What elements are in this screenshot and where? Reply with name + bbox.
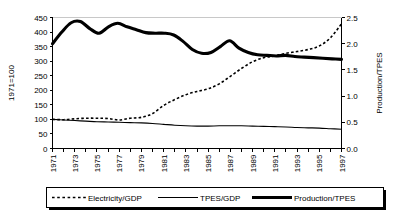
chart-figure: 050100150200250300350400450 0.00.51.01.5… (0, 0, 393, 217)
legend-label-tpes-gdp: TPES/GDP (200, 194, 240, 203)
left-tick-label: 400 (34, 28, 48, 37)
series-line-electricity-gdp (53, 24, 342, 120)
right-tick-label: 0.0 (347, 145, 359, 154)
x-tick-label: 1987 (226, 154, 235, 172)
legend-label-production-tpes: Production/TPES (294, 194, 355, 203)
x-tick-label: 1993 (293, 154, 302, 172)
x-tick-label: 1985 (204, 154, 213, 172)
legend-label-electricity-gdp: Electricity/GDP (88, 194, 142, 203)
left-tick-label: 50 (39, 130, 48, 139)
x-tick-label: 1973 (71, 154, 80, 172)
right-tick-label: 1.5 (347, 66, 359, 75)
left-tick-label: 250 (34, 72, 48, 81)
x-tick-label: 1991 (271, 154, 280, 172)
chart-legend: Electricity/GDP TPES/GDP Production/TPES (47, 188, 387, 211)
chart-svg: 050100150200250300350400450 0.00.51.01.5… (0, 0, 393, 217)
left-tick-label: 100 (34, 115, 48, 124)
right-axis-tick-labels: 0.00.51.01.52.02.5 (347, 14, 359, 154)
x-tick-label: 1997 (338, 154, 347, 172)
plot-area-border (53, 18, 342, 149)
x-tick-label: 1975 (93, 154, 102, 172)
x-tick-label: 1983 (182, 154, 191, 172)
right-tick-label: 2.0 (347, 40, 359, 49)
left-tick-label: 300 (34, 57, 48, 66)
right-axis-title: Production/TPES (375, 52, 384, 113)
right-tick-label: 2.5 (347, 14, 359, 23)
series-line-production-tpes (53, 21, 342, 59)
series-line-tpes-gdp (53, 119, 342, 129)
x-tick-label: 1977 (115, 154, 124, 172)
left-tick-label: 350 (34, 43, 48, 52)
x-tick-label: 1981 (160, 154, 169, 172)
left-tick-label: 0 (43, 145, 48, 154)
left-tick-label: 450 (34, 14, 48, 23)
x-tick-label: 1971 (49, 154, 58, 172)
left-tick-label: 200 (34, 86, 48, 95)
left-axis-tick-labels: 050100150200250300350400450 (34, 14, 48, 154)
x-tick-label: 1979 (137, 154, 146, 172)
right-tick-label: 1.0 (347, 92, 359, 101)
x-tick-label: 1995 (315, 154, 324, 172)
x-axis-tick-labels: 1971197319751977197919811983198519871989… (49, 154, 347, 172)
left-axis-title: 1971=100 (7, 65, 16, 101)
right-tick-label: 0.5 (347, 118, 359, 127)
left-tick-label: 150 (34, 101, 48, 110)
x-tick-label: 1989 (249, 154, 258, 172)
